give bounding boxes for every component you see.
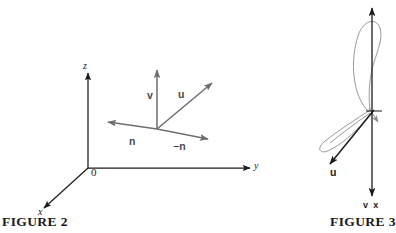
vector-label-minus-n: −n bbox=[173, 140, 186, 152]
gray-loop-curve-upper bbox=[353, 21, 380, 112]
vector-n bbox=[108, 122, 157, 129]
axis-x bbox=[44, 168, 88, 208]
origin-label: 0 bbox=[91, 166, 97, 178]
figure-3-caption: FIGURE 3 bbox=[330, 214, 396, 230]
figure-3-label-cross: v x bbox=[363, 200, 380, 210]
figure-3-panel: u v x FIGURE 3 bbox=[300, 0, 391, 233]
vector-u bbox=[157, 83, 212, 129]
figure-2-caption: FIGURE 2 bbox=[2, 214, 68, 230]
figure-3-label-u: u bbox=[330, 166, 336, 178]
vector-minus-n bbox=[157, 129, 208, 139]
vector-label-u: u bbox=[178, 88, 184, 100]
axis-label-z: z bbox=[83, 60, 87, 71]
axis-label-y: y bbox=[254, 160, 258, 171]
figure-3-diagram bbox=[300, 0, 391, 233]
figure-2-diagram bbox=[0, 0, 300, 233]
figure-2-panel: z y x 0 v u n −n FIGURE 2 bbox=[0, 0, 300, 233]
vector-label-v: v bbox=[147, 89, 153, 101]
vector-label-n: n bbox=[129, 135, 135, 147]
vector-u-arrow bbox=[330, 110, 374, 164]
